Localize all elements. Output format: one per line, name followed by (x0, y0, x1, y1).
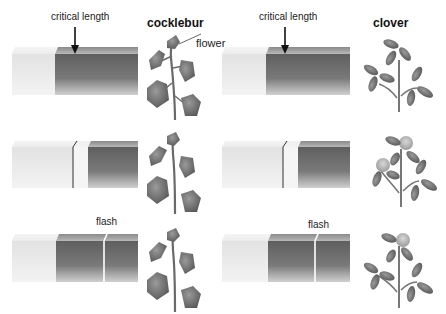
critical-length-label-left: critical length (51, 11, 109, 22)
cocklebur-plant-vegetative-row3 (147, 228, 201, 312)
clover-row1-bar (222, 47, 350, 95)
clover-row3-bar (222, 234, 350, 282)
critical-length-label-right: critical length (259, 11, 317, 22)
clover-row2-bar (222, 141, 350, 188)
clover-plant-flowering-row3 (362, 232, 435, 308)
clover-title: clover (373, 16, 408, 30)
cocklebur-plant-vegetative-row2 (147, 132, 201, 214)
flower-label: flower (196, 37, 225, 49)
cocklebur-row1-bar (12, 47, 138, 95)
cocklebur-row2-bar (12, 141, 138, 188)
clover-plant-flowering-row2 (371, 135, 439, 207)
flash-label-left: flash (96, 216, 117, 227)
cocklebur-row3-bar (12, 234, 138, 282)
cocklebur-plant-flowering (147, 34, 201, 120)
cocklebur-title: cocklebur (147, 16, 204, 30)
flash-label-right: flash (308, 219, 329, 230)
clover-plant-vegetative (362, 38, 435, 112)
